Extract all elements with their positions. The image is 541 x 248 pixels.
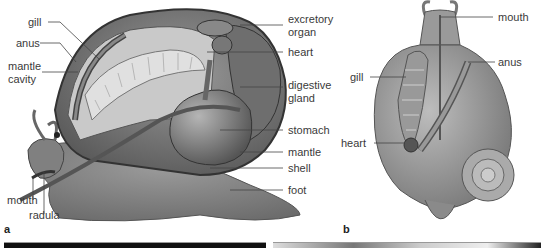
label-anus: anus bbox=[16, 38, 40, 49]
label-digestive-gland-line1: digestive bbox=[288, 80, 331, 91]
label-b-gill: gill bbox=[350, 72, 363, 83]
label-digestive-gland-line2: gland bbox=[288, 93, 315, 104]
label-foot: foot bbox=[288, 185, 306, 196]
label-mantle-cavity-line1: mantle bbox=[8, 61, 41, 72]
label-stomach: stomach bbox=[288, 125, 330, 136]
panel-letter-a: a bbox=[4, 223, 10, 235]
label-heart: heart bbox=[288, 47, 313, 58]
panel-b-snail-top-view: mouth anus gill heart b bbox=[340, 0, 541, 235]
photo-left-partial bbox=[4, 242, 266, 248]
label-mouth: mouth bbox=[7, 195, 38, 206]
panel-letter-b: b bbox=[343, 223, 350, 235]
panel-a-snail-cutaway: gill anus mantle cavity excretory organ … bbox=[0, 0, 340, 235]
label-mantle-cavity-line2: cavity bbox=[8, 74, 36, 85]
label-radula: radula bbox=[29, 210, 60, 221]
label-gill: gill bbox=[28, 17, 41, 28]
label-mantle: mantle bbox=[288, 147, 321, 158]
label-shell: shell bbox=[288, 163, 311, 174]
label-b-heart: heart bbox=[341, 138, 366, 149]
label-b-anus: anus bbox=[498, 57, 522, 68]
label-excretory-organ-line1: excretory bbox=[288, 14, 333, 25]
panel-b-leader-lines bbox=[340, 0, 541, 235]
label-excretory-organ-line2: organ bbox=[288, 27, 316, 38]
photo-right-partial bbox=[273, 242, 541, 248]
label-b-mouth: mouth bbox=[498, 12, 529, 23]
